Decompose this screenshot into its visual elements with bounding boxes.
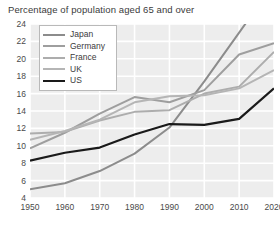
legend-label: Germany [70,41,105,53]
legend-label: US [70,75,82,87]
x-tick-label: 1970 [83,202,117,212]
y-tick-label: 16 [4,89,26,99]
legend-item-japan[interactable]: Japan [43,29,112,41]
legend-swatch-uk [43,68,65,70]
legend-label: France [70,52,96,64]
legend-item-france[interactable]: France [43,52,112,64]
legend-swatch-us [43,80,65,82]
x-tick-label: 2020 [257,202,280,212]
legend-item-germany[interactable]: Germany [43,41,112,53]
x-tick-label: 1990 [152,202,186,212]
x-tick-label: 1950 [13,202,47,212]
y-tick-label: 12 [4,123,26,133]
x-tick-label: 2010 [222,202,256,212]
chart-container: Percentage of population aged 65 and ove… [0,0,280,238]
legend-label: UK [70,64,82,76]
y-tick-label: 20 [4,54,26,64]
x-tick-label: 2000 [187,202,221,212]
legend-swatch-germany [43,45,65,47]
y-tick-label: 8 [4,158,26,168]
chart-legend: JapanGermanyFranceUKUS [39,25,117,91]
legend-swatch-france [43,57,65,59]
y-tick-label: 10 [4,141,26,151]
x-tick-label: 1960 [48,202,82,212]
legend-item-us[interactable]: US [43,75,112,87]
legend-swatch-japan [43,34,65,36]
x-tick-label: 1980 [118,202,152,212]
y-tick-label: 18 [4,71,26,81]
y-tick-label: 14 [4,106,26,116]
legend-item-uk[interactable]: UK [43,64,112,76]
chart-title: Percentage of population aged 65 and ove… [8,4,194,15]
y-tick-label: 6 [4,176,26,186]
y-tick-label: 22 [4,36,26,46]
legend-label: Japan [70,29,93,41]
y-tick-label: 24 [4,19,26,29]
